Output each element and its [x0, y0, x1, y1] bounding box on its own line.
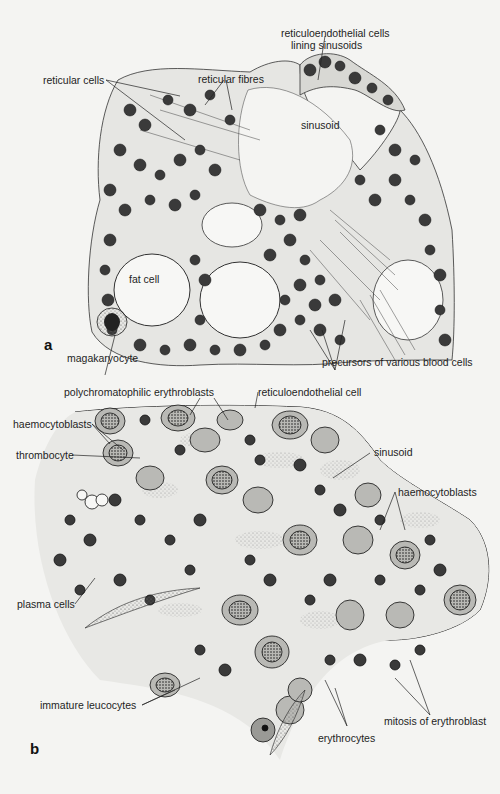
label-plasma-cells: plasma cells — [17, 598, 75, 610]
panel-a-tissue — [88, 54, 454, 366]
label-reticuloendothelial-cell: reticuloendothelial cell — [258, 386, 361, 398]
label-reticular-cells: reticular cells — [43, 74, 104, 86]
label-mitosis-of-erythroblast: mitosis of erythroblast — [384, 715, 486, 727]
label-thrombocyte: thrombocyte — [16, 449, 74, 461]
label-erythrocytes: erythrocytes — [318, 732, 375, 744]
label-megakaryocyte: magakaryocyte — [67, 352, 138, 364]
label-haemocytoblasts-right: haemocytoblasts — [398, 486, 477, 498]
bone-marrow-figure: reticuloendothelial cells lining sinusoi… — [0, 0, 500, 794]
label-lining-sinusoids: lining sinusoids — [291, 39, 362, 51]
label-reticuloendothelial-cells: reticuloendothelial cells — [281, 27, 390, 39]
label-sinusoid-b: sinusoid — [374, 446, 413, 458]
panel-b-letter: b — [30, 740, 39, 757]
label-polychromatophilic-erythroblasts: polychromatophilic erythroblasts — [64, 386, 214, 398]
label-haemocytoblasts-left: haemocytoblasts — [13, 418, 92, 430]
panel-a-letter: a — [44, 336, 52, 353]
label-immature-leucocytes: immature leucocytes — [40, 699, 136, 711]
label-sinusoid-a: sinusoid — [301, 119, 340, 131]
label-fat-cell: fat cell — [129, 273, 159, 285]
label-precursors: precursors of various blood cells — [322, 356, 473, 368]
label-reticular-fibres: reticular fibres — [198, 73, 264, 85]
